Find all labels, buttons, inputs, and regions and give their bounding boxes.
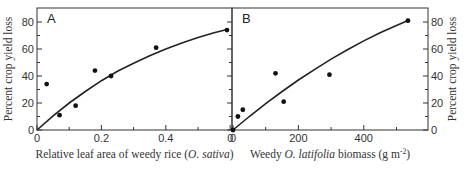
y-tick-label: 80 bbox=[431, 16, 443, 28]
y-axis-title: Percent crop yield loss bbox=[446, 16, 459, 121]
x-axis-title-part: ) bbox=[406, 148, 410, 161]
data-point bbox=[231, 128, 236, 133]
y-tick-label: 80 bbox=[22, 16, 34, 28]
data-point bbox=[93, 68, 98, 73]
data-point bbox=[225, 28, 230, 33]
y-tick-label: 40 bbox=[431, 70, 443, 82]
panel-label: B bbox=[242, 11, 251, 26]
y-tick-label: 60 bbox=[431, 43, 443, 55]
y-tick-label: 40 bbox=[22, 70, 34, 82]
x-tick-label: 0.4 bbox=[158, 132, 173, 144]
panel-b: 0204060800200400BWeedy O. latifolia biom… bbox=[227, 8, 459, 161]
x-axis-title-part: ) bbox=[230, 148, 234, 161]
data-point bbox=[327, 72, 332, 77]
x-tick-label: 0.2 bbox=[94, 132, 109, 144]
data-point bbox=[109, 74, 114, 79]
x-axis-title-part: biomass (g m bbox=[335, 148, 400, 161]
x-tick-label: 0 bbox=[34, 132, 40, 144]
panel-a: 02040608000.20.40ARelative leaf area of … bbox=[2, 8, 234, 161]
y-tick-label: 20 bbox=[431, 97, 443, 109]
data-point bbox=[73, 103, 78, 108]
x-tick-label: 400 bbox=[355, 132, 373, 144]
y-axis-title: Percent crop yield loss bbox=[2, 16, 15, 121]
y-tick-label: 0 bbox=[431, 124, 437, 136]
fitted-curve bbox=[37, 29, 227, 130]
data-point bbox=[240, 107, 245, 112]
figure: 02040608000.20.40ARelative leaf area of … bbox=[0, 0, 464, 169]
data-point bbox=[154, 45, 159, 50]
x-tick-label: 0 bbox=[230, 132, 236, 144]
x-axis-title: Weedy O. latifolia biomass (g m-2) bbox=[250, 147, 410, 162]
x-tick-label: 200 bbox=[289, 132, 307, 144]
x-axis-title-part: Weedy bbox=[250, 148, 285, 161]
fitted-curve bbox=[233, 21, 408, 130]
data-point bbox=[57, 113, 62, 118]
x-axis-title-part: O. sativa bbox=[188, 148, 230, 160]
data-point bbox=[273, 71, 278, 76]
data-point bbox=[406, 18, 411, 23]
x-axis-title-part: O. latifolia bbox=[285, 148, 336, 161]
y-tick-label: 60 bbox=[22, 43, 34, 55]
x-axis-title-part: Relative leaf area of weedy rice ( bbox=[36, 148, 189, 161]
data-point bbox=[281, 99, 286, 104]
data-point bbox=[236, 114, 241, 119]
panel-label: A bbox=[47, 11, 56, 26]
plot-frame bbox=[37, 8, 232, 130]
x-axis-title: Relative leaf area of weedy rice (O. sat… bbox=[36, 148, 234, 161]
data-point bbox=[44, 82, 49, 87]
y-tick-label: 20 bbox=[22, 97, 34, 109]
plot-frame bbox=[232, 8, 428, 130]
